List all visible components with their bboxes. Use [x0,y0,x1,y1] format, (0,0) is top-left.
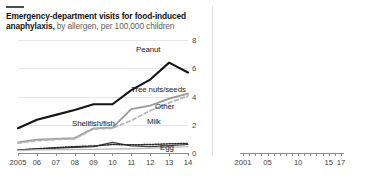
x-tick-10 [112,153,113,156]
left-x-axis [18,153,188,154]
x-tick-14 [188,153,189,156]
series-label-egg: Egg [160,143,174,152]
x-tick-2005 [268,153,269,156]
x-tick-label-13: 13 [165,158,173,167]
y-tick-label-8: 8 [192,36,196,45]
left-chart-title: Emergency-department visits for food-ind… [6,11,206,32]
title-rule-left [6,6,24,8]
x-tick-2014 [323,153,324,156]
x-tick-11 [131,153,132,156]
x-tick-label-14: 14 [184,158,192,167]
x-tick-06 [37,153,38,156]
left-chart-panel: Emergency-department visits for food-ind… [0,0,212,177]
x-tick-2010 [298,153,299,156]
x-tick-label-15: 15 [324,158,332,167]
y-tick-label-0: 0 [192,149,196,158]
x-tick-2017 [341,153,342,156]
x-tick-label-12: 12 [146,158,154,167]
left-title-subtitle: by allergen, per 100,000 children [55,21,175,31]
x-tick-2004 [261,153,262,156]
y-tick-label-6: 6 [192,64,196,73]
x-tick-08 [75,153,76,156]
x-tick-label-2005: 2005 [10,158,27,167]
x-tick-2015 [329,153,330,156]
x-tick-label-06: 06 [33,158,41,167]
right-chart-panel: Peanut allergy incidence % of total birt… [212,0,369,177]
x-tick-2003 [255,153,256,156]
x-tick-2002 [249,153,250,156]
figure-root: Emergency-department visits for food-ind… [0,0,369,177]
left-plot-area [18,40,188,153]
x-tick-label-05: 05 [263,158,271,167]
x-tick-label-09: 09 [89,158,97,167]
x-tick-label-2001: 2001 [235,158,252,167]
x-tick-2006 [274,153,275,156]
x-tick-label-07: 07 [52,158,60,167]
x-tick-2011 [304,153,305,156]
x-tick-2009 [292,153,293,156]
x-tick-label-11: 11 [127,158,135,167]
x-tick-07 [56,153,57,156]
series-label-shellfish-fish: Shellfish/fish [72,119,115,128]
series-label-tree-nuts-seeds: Tree nuts/seeds [131,85,186,94]
y-tick-label-4: 4 [192,92,196,101]
x-tick-12 [150,153,151,156]
x-tick-label-10: 10 [294,158,302,167]
x-tick-label-08: 08 [70,158,78,167]
x-tick-label-17: 17 [337,158,345,167]
x-tick-09 [94,153,95,156]
x-tick-2007 [280,153,281,156]
left-series-lines [18,40,188,153]
y-tick-label-2: 2 [192,120,196,129]
x-tick-2013 [316,153,317,156]
x-tick-2005 [18,153,19,156]
x-tick-2016 [335,153,336,156]
x-tick-13 [169,153,170,156]
series-label-milk: Milk [147,117,161,126]
x-tick-2012 [310,153,311,156]
series-label-peanut: Peanut [136,45,160,54]
x-tick-2001 [243,153,244,156]
series-label-other: Other [155,102,174,111]
left-y-axis: 02468 [192,40,210,153]
x-tick-2008 [286,153,287,156]
x-tick-label-10: 10 [108,158,116,167]
